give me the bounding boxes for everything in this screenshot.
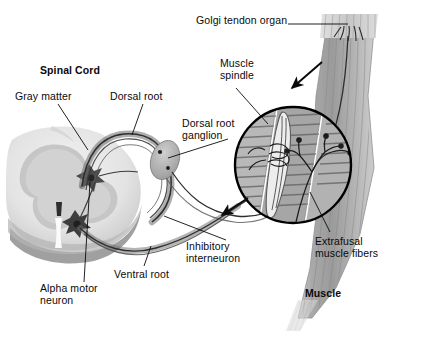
label-dorsal-root: Dorsal root: [110, 91, 162, 103]
dorsal-root-ganglion-body: [146, 137, 185, 184]
tendon-top: [320, 14, 378, 41]
leader-dorsal-root: [132, 104, 143, 135]
label-extrafusal-muscle-fibers: Extrafusal muscle fibers: [315, 236, 378, 259]
label-spinal-cord: Spinal Cord: [40, 65, 100, 77]
figure-canvas: Golgi tendon organ Spinal Cord Muscle sp…: [0, 0, 426, 339]
label-dorsal-root-ganglion: Dorsal root ganglion: [182, 118, 234, 141]
label-muscle: Muscle: [305, 288, 341, 300]
label-alpha-motor-neuron: Alpha motor neuron: [40, 283, 98, 306]
arrow-efferent: [222, 198, 248, 215]
label-ventral-root: Ventral root: [114, 269, 169, 281]
spinal-cord-cross-section: [6, 126, 142, 263]
label-inhibitory-interneuron: Inhibitory interneuron: [186, 241, 240, 264]
label-muscle-spindle: Muscle spindle: [220, 58, 254, 81]
label-golgi-tendon-organ: Golgi tendon organ: [196, 15, 287, 27]
label-gray-matter: Gray matter: [15, 91, 72, 103]
leader-muscle-spindle: [236, 88, 268, 124]
